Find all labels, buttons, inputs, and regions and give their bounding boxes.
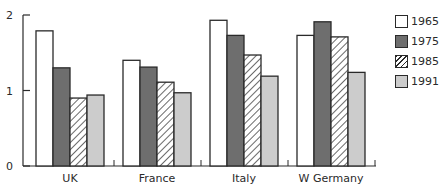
bar-france-1975 (140, 67, 157, 166)
bar-w-germany-1985 (331, 37, 348, 166)
bar-uk-1965 (36, 31, 53, 166)
bar-italy-1965 (210, 20, 227, 166)
legend-label: 1985 (411, 55, 439, 68)
bar-italy-1991 (261, 76, 278, 166)
bar-uk-1991 (87, 95, 104, 166)
y-tick-label: 2 (6, 9, 13, 22)
y-tick-label: 1 (6, 85, 13, 98)
x-category-label: France (139, 172, 176, 185)
swatch-hatched-icon (395, 55, 408, 68)
swatch-white-icon (395, 15, 408, 28)
legend-label: 1965 (411, 15, 439, 28)
legend-label: 1991 (411, 75, 439, 88)
bar-w-germany-1965 (297, 35, 314, 166)
category-labels: UKFranceItalyW Germany (62, 172, 364, 185)
legend-item-1965: 1965 (395, 11, 439, 31)
bars (36, 20, 365, 166)
bar-uk-1985 (70, 98, 87, 166)
bar-italy-1975 (227, 35, 244, 166)
x-category-label: Italy (232, 172, 256, 185)
y-axis: 012 (6, 9, 30, 173)
legend: 1965 1975 1985 1991 (395, 11, 439, 91)
x-category-label: W Germany (299, 172, 364, 185)
bar-uk-1975 (53, 68, 70, 166)
legend-item-1975: 1975 (395, 31, 439, 51)
x-category-label: UK (62, 172, 78, 185)
bar-france-1991 (174, 93, 191, 166)
bar-w-germany-1975 (314, 22, 331, 166)
legend-label: 1975 (411, 35, 439, 48)
bar-italy-1985 (244, 55, 261, 166)
bar-w-germany-1991 (348, 72, 365, 166)
bar-chart: 012 UKFranceItalyW Germany (0, 0, 445, 189)
bar-france-1985 (157, 82, 174, 166)
legend-item-1991: 1991 (395, 71, 439, 91)
bar-france-1965 (123, 60, 140, 166)
y-tick-label: 0 (6, 160, 13, 173)
legend-item-1985: 1985 (395, 51, 439, 71)
swatch-dark-gray-icon (395, 35, 408, 48)
swatch-light-gray-icon (395, 75, 408, 88)
